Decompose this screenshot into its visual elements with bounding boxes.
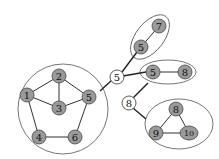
node-3: 3 bbox=[52, 101, 66, 115]
edge-connector-5-right bbox=[123, 72, 146, 76]
node-2: 2 bbox=[52, 69, 66, 83]
node-9: 9 bbox=[149, 126, 163, 140]
node-10: 10 bbox=[180, 126, 198, 140]
node-label: 4 bbox=[36, 132, 42, 143]
node-label: 1 bbox=[24, 90, 30, 101]
node-label: 5 bbox=[86, 92, 92, 103]
node-4: 4 bbox=[32, 130, 46, 144]
node-label: 8 bbox=[173, 104, 179, 115]
connector-node-8: 8 bbox=[122, 96, 136, 110]
node-label: 5 bbox=[150, 67, 156, 78]
connector-node-5: 5 bbox=[110, 70, 124, 84]
node-8-right: 8 bbox=[178, 65, 192, 79]
node-6: 6 bbox=[68, 130, 82, 144]
node-label: 8 bbox=[126, 98, 132, 109]
node-label: 9 bbox=[153, 128, 159, 139]
edge-connector-8-triangle bbox=[133, 108, 146, 119]
node-5-right: 5 bbox=[146, 65, 160, 79]
node-1: 1 bbox=[20, 88, 34, 102]
node-label: 5 bbox=[138, 42, 144, 53]
node-8-triangle: 8 bbox=[169, 102, 183, 116]
node-7: 7 bbox=[152, 19, 166, 33]
node-label: 5 bbox=[114, 72, 120, 83]
graph-diagram: 1 2 3 4 5 6 7 5 5 8 8 9 bbox=[0, 0, 219, 159]
node-label: 8 bbox=[182, 67, 188, 78]
node-5-top: 5 bbox=[134, 40, 148, 54]
node-label: 7 bbox=[156, 21, 162, 32]
edge-connector-8-right bbox=[133, 83, 148, 98]
node-label: 3 bbox=[56, 103, 62, 114]
node-label: 10 bbox=[184, 129, 194, 138]
edge-connector-5-top bbox=[122, 52, 137, 72]
node-label: 2 bbox=[56, 71, 62, 82]
node-label: 6 bbox=[72, 132, 78, 143]
node-5: 5 bbox=[82, 90, 96, 104]
